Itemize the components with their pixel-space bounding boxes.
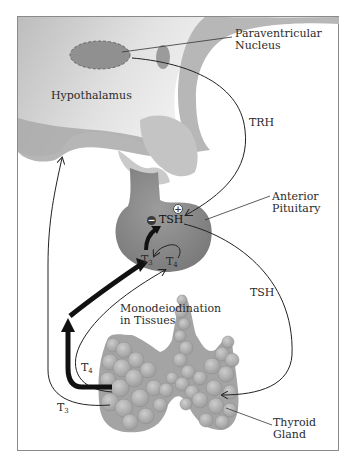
t4-thyroid-label: T4 (81, 362, 93, 377)
paraventricular-label: Paraventricular Nucleus (235, 28, 322, 52)
monodeiodination-label: Monodeiodination in Tissues (120, 303, 221, 327)
thyroid-axis-diagram: Paraventricular Nucleus Hypothalamus TRH… (0, 0, 354, 463)
paraventricular-nucleus (70, 41, 130, 69)
thyroid-gland-label: Thyroid Gland (273, 417, 316, 441)
hypothalamus-label: Hypothalamus (51, 90, 132, 102)
t3-thyroid-label: T3 (57, 402, 69, 417)
trh-label: TRH (249, 117, 274, 129)
diagram-artwork (0, 0, 354, 463)
tsh-pathway-label: TSH (250, 287, 274, 299)
inhibition-minus-icon: − (147, 216, 156, 225)
anterior-pituitary-label: Anterior Pituitary (272, 191, 320, 215)
t3-pituitary-label: T3 (141, 254, 153, 269)
tsh-pituitary-label: TSH (159, 214, 183, 226)
t4-pituitary-label: T4 (166, 256, 178, 271)
